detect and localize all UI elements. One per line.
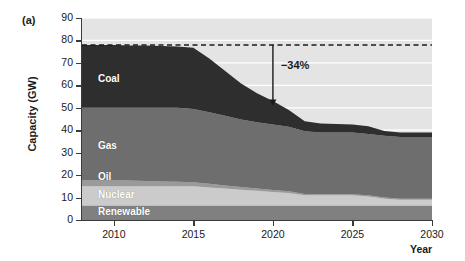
x-tick [432,221,433,226]
y-tick [76,175,81,176]
y-tick-label: 10 [0,191,73,203]
series-label-nuclear: Nuclear [98,189,135,200]
x-axis-line [81,220,433,221]
x-tick [352,221,353,226]
x-tick-label: 2030 [420,228,443,240]
x-tick-label: 2010 [102,228,125,240]
y-tick [76,85,81,86]
series-label-renewable: Renewable [98,206,150,217]
y-tick [76,130,81,131]
y-tick-label: 40 [0,123,73,135]
y-tick-label: 50 [0,101,73,113]
x-axis-title: Year [410,243,432,255]
plot-area: CoalGasOilNuclearRenewable −34% [82,18,432,220]
y-tick [76,40,81,41]
y-tick [76,108,81,109]
series-label-coal: Coal [98,73,120,84]
x-tick-label: 2020 [261,228,284,240]
y-tick-label: 30 [0,146,73,158]
figure-panel: (a) Capacity (GW) Year 01020304050607080… [0,0,465,261]
annotation-label-decline: −34% [281,59,309,71]
y-tick-label: 90 [0,11,73,23]
x-tick-label: 2015 [182,228,205,240]
x-tick [193,221,194,226]
y-tick [76,198,81,199]
y-tick-label: 60 [0,78,73,90]
y-tick [76,63,81,64]
y-tick [76,18,81,19]
y-tick-label: 70 [0,56,73,68]
y-tick-label: 80 [0,33,73,45]
x-tick [273,221,274,226]
x-tick [114,221,115,226]
y-tick-label: 0 [0,213,73,225]
y-tick [76,220,81,221]
series-label-oil: Oil [98,171,111,182]
y-tick [76,153,81,154]
x-tick-label: 2025 [341,228,364,240]
y-tick-label: 20 [0,168,73,180]
series-label-gas: Gas [98,140,117,151]
